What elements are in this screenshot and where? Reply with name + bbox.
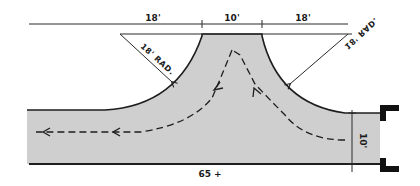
left-width-label: 18'	[145, 13, 160, 23]
right-radius-leader	[290, 34, 348, 84]
left-radius-label: 18' RAD.	[139, 42, 177, 77]
road-width-label: 10'	[358, 133, 368, 148]
bottom-end-bracket	[380, 158, 399, 172]
road-length-label: 65 +	[198, 169, 221, 179]
right-radius-label: 18' RAD.	[343, 16, 380, 52]
stem-width-label: 10'	[224, 13, 239, 23]
turnaround-diagram: 18' 10' 18' 18' RAD. 18' RAD. 10' 65 +	[0, 0, 420, 186]
right-width-label: 18'	[295, 13, 310, 23]
top-end-bracket	[380, 105, 399, 121]
pavement-area	[27, 34, 380, 164]
left-radius-leader	[120, 34, 172, 82]
